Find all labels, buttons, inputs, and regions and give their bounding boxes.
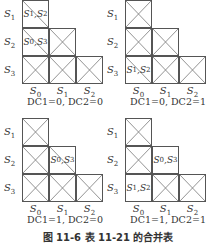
cell-state-pair: S1,S2	[126, 175, 151, 201]
condition-label: DC1=1, DC2=1	[125, 214, 211, 225]
cross-mark-icon	[77, 57, 102, 83]
figure-caption: 图 11-6 表 11-21 的合并表	[0, 229, 216, 244]
condition-label: DC1=0, DC2=1	[125, 96, 211, 107]
cross-mark-icon	[153, 57, 178, 83]
table-cell-s3_s1	[49, 56, 76, 84]
cross-mark-icon	[50, 29, 75, 55]
table-cell-s2_s1: S0,S3	[49, 146, 76, 174]
implication-table-panel: S1S2S3S1,S2S0,S3S0S1S2DC1=0, DC2=0	[0, 0, 108, 110]
table-cell-s2_s1	[49, 28, 76, 56]
cross-mark-icon	[23, 119, 48, 145]
implication-table-panel: S1S2S3S0,S3S1,S2S0S1S2DC1=1, DC2=1	[103, 118, 211, 228]
cross-mark-icon	[23, 147, 48, 173]
table-cell-s2_s0	[125, 28, 152, 56]
implication-table-panel: S1S2S3S1,S2S0S1S2DC1=0, DC2=1	[103, 0, 211, 110]
table-cell-s2_s0: S0,S3	[22, 28, 49, 56]
implication-table-panel: S1S2S3S0,S3S0S1S2DC1=1, DC2=0	[0, 118, 108, 228]
table-cell-s3_s1	[49, 174, 76, 202]
row-label: S3	[4, 174, 22, 206]
cross-mark-icon	[180, 57, 205, 83]
condition-label: DC1=0, DC2=0	[22, 96, 108, 107]
table-cell-s3_s0	[22, 56, 49, 84]
table-cell-s1_s0	[125, 0, 152, 28]
table-cell-s3_s1	[152, 56, 179, 84]
cell-state-pair: S0,S3	[153, 147, 178, 173]
cross-mark-icon	[153, 29, 178, 55]
table-cell-s3_s2	[76, 174, 103, 202]
cross-mark-icon	[153, 175, 178, 201]
cross-mark-icon	[23, 175, 48, 201]
table-cell-s3_s0	[22, 174, 49, 202]
table-cell-s3_s1	[152, 174, 179, 202]
cell-state-pair: S0,S3	[23, 29, 48, 55]
table-cell-s2_s1: S0,S3	[152, 146, 179, 174]
condition-label: DC1=1, DC2=0	[22, 214, 108, 225]
cross-mark-icon	[126, 147, 151, 173]
row-label: S3	[107, 174, 125, 206]
table-cell-s2_s0	[22, 146, 49, 174]
cross-mark-icon	[23, 57, 48, 83]
cell-state-pair: S1,S2	[126, 57, 151, 83]
table-cell-s2_s1	[152, 28, 179, 56]
table-cell-s3_s0: S1,S2	[125, 174, 152, 202]
table-cell-s3_s2	[179, 56, 206, 84]
row-label: S3	[107, 56, 125, 88]
cross-mark-icon	[126, 1, 151, 27]
cross-mark-icon	[180, 175, 205, 201]
table-cell-s3_s2	[76, 56, 103, 84]
cell-state-pair: S0,S3	[50, 147, 75, 173]
cross-mark-icon	[50, 175, 75, 201]
row-label: S3	[4, 56, 22, 88]
cell-state-pair: S1,S2	[23, 1, 48, 27]
table-cell-s3_s2	[179, 174, 206, 202]
table-cell-s2_s0	[125, 146, 152, 174]
cross-mark-icon	[50, 57, 75, 83]
cross-mark-icon	[77, 175, 102, 201]
table-cell-s1_s0: S1,S2	[22, 0, 49, 28]
cross-mark-icon	[126, 29, 151, 55]
table-cell-s3_s0: S1,S2	[125, 56, 152, 84]
table-cell-s1_s0	[125, 118, 152, 146]
table-cell-s1_s0	[22, 118, 49, 146]
cross-mark-icon	[126, 119, 151, 145]
